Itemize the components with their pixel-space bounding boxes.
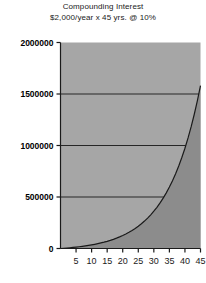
svg-text:35: 35 (164, 256, 174, 266)
svg-text:25: 25 (133, 256, 143, 266)
compounding-interest-chart: Compounding Interest $2,000/year x 45 yr… (0, 0, 206, 283)
svg-text:20: 20 (118, 256, 128, 266)
svg-text:2000000: 2000000 (20, 38, 53, 48)
svg-text:45: 45 (195, 256, 205, 266)
svg-text:0: 0 (49, 244, 54, 254)
y-axis-tick-labels: 0500000100000015000002000000 (20, 38, 53, 254)
svg-text:15: 15 (102, 256, 112, 266)
x-axis-ticks (76, 249, 200, 253)
svg-text:5: 5 (74, 256, 79, 266)
svg-text:1500000: 1500000 (20, 89, 53, 99)
svg-text:500000: 500000 (25, 192, 54, 202)
x-axis-tick-labels: 51015202530354045 (74, 256, 206, 266)
chart-plot-area: 0500000100000015000002000000 51015202530… (0, 0, 206, 283)
svg-text:40: 40 (180, 256, 190, 266)
svg-text:10: 10 (87, 256, 97, 266)
svg-text:1000000: 1000000 (20, 141, 53, 151)
svg-text:30: 30 (149, 256, 159, 266)
